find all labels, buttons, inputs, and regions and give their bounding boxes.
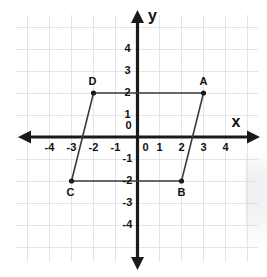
y-axis-arrow-up bbox=[131, 10, 144, 23]
y-tick-label-neg1: -1 bbox=[123, 152, 133, 164]
axis-name-labels: xy bbox=[148, 7, 241, 130]
x-axis-arrow-right bbox=[247, 131, 260, 144]
x-tick-label-neg4: -4 bbox=[45, 141, 56, 153]
y-axis-name-label: y bbox=[148, 7, 157, 24]
y-axis-arrow-down bbox=[131, 257, 144, 270]
y-tick-label-3: 3 bbox=[124, 64, 130, 76]
vertex-dot-D bbox=[91, 90, 96, 95]
coordinate-plane-figure: -4-3-2-10123443210-1-2-3-4 ABCD xy bbox=[0, 0, 267, 277]
x-tick-label-neg3: -3 bbox=[67, 141, 77, 153]
vertex-dot-B bbox=[179, 178, 184, 183]
x-axis-arrow-left bbox=[18, 131, 31, 144]
x-tick-label-neg2: -2 bbox=[89, 141, 99, 153]
vertex-label-D: D bbox=[89, 75, 97, 87]
vertex-dot-C bbox=[69, 178, 74, 183]
x-tick-label-2: 2 bbox=[178, 141, 184, 153]
x-tick-label-1: 1 bbox=[156, 141, 162, 153]
vertex-label-C: C bbox=[67, 186, 75, 198]
y-tick-label-neg4: -4 bbox=[123, 218, 134, 230]
vertex-label-B: B bbox=[178, 186, 186, 198]
y-tick-label-neg3: -3 bbox=[123, 196, 133, 208]
vertex-dot-A bbox=[201, 90, 206, 95]
vertex-label-A: A bbox=[200, 75, 208, 87]
x-tick-label-0: 0 bbox=[142, 141, 148, 153]
y-tick-label-neg2: -2 bbox=[123, 174, 133, 186]
x-tick-label-3: 3 bbox=[200, 141, 206, 153]
x-tick-label-4: 4 bbox=[222, 141, 229, 153]
y-tick-label-0: 0 bbox=[125, 119, 131, 131]
x-axis-name-label: x bbox=[232, 113, 241, 130]
x-tick-label-neg1: -1 bbox=[111, 141, 121, 153]
y-tick-label-2: 2 bbox=[124, 86, 130, 98]
coordinate-plane-svg: -4-3-2-10123443210-1-2-3-4 ABCD xy bbox=[0, 0, 267, 277]
y-tick-label-4: 4 bbox=[124, 42, 131, 54]
